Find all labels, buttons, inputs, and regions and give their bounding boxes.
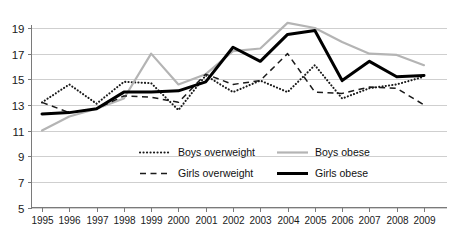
x-tick-label-2004: 2004 — [277, 215, 300, 226]
series-line-boys-obese — [42, 23, 424, 131]
x-tick-label-1999: 1999 — [140, 215, 163, 226]
y-tick-labels-group: 5791113151719 — [12, 23, 25, 215]
y-tick-label-11: 11 — [13, 126, 25, 138]
x-tick-label-2009: 2009 — [413, 215, 436, 226]
series-paths-group — [42, 23, 424, 131]
x-tick-label-1998: 1998 — [113, 215, 136, 226]
y-tick-label-5: 5 — [18, 203, 24, 215]
legend-label: Boys obese — [315, 146, 370, 158]
x-tick-label-2000: 2000 — [167, 215, 190, 226]
legend-item-girls-overweight[interactable]: Girls overweight — [140, 167, 253, 179]
legend-item-girls-obese[interactable]: Girls obese — [277, 167, 368, 179]
legend-item-boys-obese[interactable]: Boys obese — [277, 146, 370, 158]
x-tick-label-2005: 2005 — [304, 215, 327, 226]
x-tick-label-1996: 1996 — [58, 215, 81, 226]
x-tick-label-2001: 2001 — [195, 215, 218, 226]
legend-item-boys-overweight[interactable]: Boys overweight — [140, 146, 255, 158]
y-tick-label-17: 17 — [12, 49, 25, 61]
x-tick-label-2002: 2002 — [222, 215, 245, 226]
gridlines-group — [32, 29, 448, 209]
legend-label: Girls obese — [315, 167, 368, 179]
series-line-boys-overweight — [42, 65, 424, 110]
y-tick-marks-group — [28, 29, 32, 209]
line-chart: 5791113151719 19951996199719981999200020… — [0, 0, 453, 232]
y-tick-label-9: 9 — [18, 151, 24, 163]
axes-group — [32, 25, 448, 208]
y-tick-label-7: 7 — [18, 177, 24, 189]
legend-label: Girls overweight — [178, 167, 253, 179]
chart-legend: Boys overweightBoys obeseGirls overweigh… — [140, 146, 370, 179]
x-tick-label-2008: 2008 — [386, 215, 409, 226]
legend-label: Boys overweight — [178, 146, 255, 158]
chart-container: 5791113151719 19951996199719981999200020… — [0, 0, 453, 232]
x-tick-label-1997: 1997 — [86, 215, 109, 226]
y-tick-label-13: 13 — [12, 100, 25, 112]
x-tick-labels-group: 1995199619971998199920002001200220032004… — [31, 215, 436, 226]
x-tick-label-2003: 2003 — [249, 215, 272, 226]
x-tick-label-2006: 2006 — [331, 215, 354, 226]
y-tick-label-19: 19 — [12, 23, 25, 35]
x-tick-label-2007: 2007 — [358, 215, 381, 226]
y-tick-label-15: 15 — [12, 74, 25, 86]
x-tick-label-1995: 1995 — [31, 215, 54, 226]
